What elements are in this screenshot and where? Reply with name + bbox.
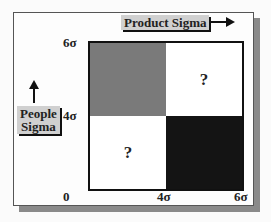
x-axis-arrowhead-icon xyxy=(226,17,235,27)
x-axis-label: Product Sigma xyxy=(121,15,209,30)
quadrant-top-right: ? xyxy=(166,43,242,116)
y-tick-6sigma: 6σ xyxy=(63,35,77,51)
y-axis-arrow-icon xyxy=(33,88,35,103)
quadrant-top-left xyxy=(90,43,166,116)
quadrant-bottom-left: ? xyxy=(90,116,166,189)
y-axis-label: People Sigma xyxy=(17,106,60,134)
x-tick-6sigma: 6σ xyxy=(234,189,248,205)
y-axis-label-line2: Sigma xyxy=(20,120,57,133)
quadrant-grid: ? ? xyxy=(88,41,244,191)
x-tick-0: 0 xyxy=(63,189,70,205)
quadrant-bottom-right xyxy=(166,116,242,189)
y-axis-arrowhead-icon xyxy=(29,80,39,89)
y-tick-4sigma: 4σ xyxy=(63,108,77,124)
x-tick-4sigma: 4σ xyxy=(157,189,171,205)
